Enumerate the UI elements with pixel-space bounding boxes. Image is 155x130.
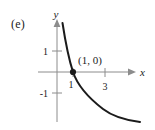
x-tick-label-3: 3 bbox=[103, 81, 108, 92]
x-axis-label: x bbox=[139, 66, 145, 78]
point-marker-1-0 bbox=[70, 69, 76, 75]
y-axis-label: y bbox=[53, 8, 59, 20]
y-tick-label-neg1: -1 bbox=[40, 88, 48, 99]
point-annotation-label: (1, 0) bbox=[78, 54, 102, 67]
figure-container: (e) 1 3 1 -1 y x (1, 0) bbox=[0, 0, 155, 130]
x-tick-label-1: 1 bbox=[69, 79, 74, 90]
y-axis-arrowhead bbox=[54, 19, 61, 27]
y-tick-label-1: 1 bbox=[43, 46, 48, 57]
graph-svg: 1 3 1 -1 y x (1, 0) bbox=[0, 0, 155, 130]
x-axis-arrowhead bbox=[128, 69, 136, 76]
